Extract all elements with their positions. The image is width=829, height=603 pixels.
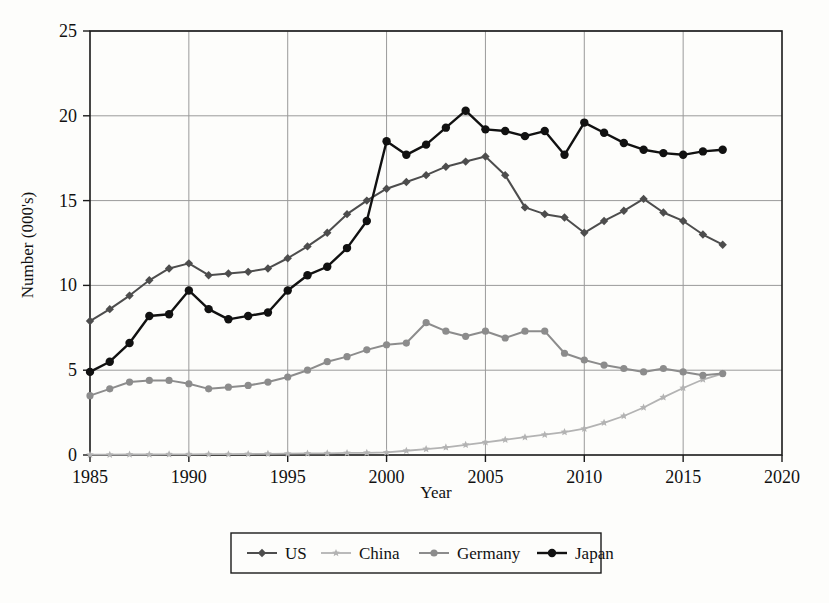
data-point [502,334,509,341]
plot-frame [90,31,782,455]
legend-label: US [285,544,307,563]
y-axis-ticks: 0510152025 [59,21,90,465]
data-point [264,264,272,272]
plot-border [90,31,782,455]
data-point [165,377,172,384]
data-point [303,271,311,279]
data-point [244,312,252,320]
data-point [343,353,350,360]
line-chart: 0510152025 19851990199520002005201020152… [0,0,829,603]
data-point [145,312,153,320]
data-point [126,378,133,385]
data-point [541,328,548,335]
y-tick-label: 0 [68,445,77,465]
data-point [442,443,450,450]
data-point [324,358,331,365]
data-point [521,328,528,335]
data-point [106,451,114,458]
data-point [382,137,390,145]
data-point [640,368,647,375]
data-point [461,157,469,165]
data-point [699,372,706,379]
series-line [90,111,723,372]
data-point [185,286,193,294]
data-point [560,151,568,159]
chart-legend: USChinaGermanyJapan [231,533,614,573]
x-axis-title: Year [420,483,452,502]
data-point [185,259,193,267]
x-tick-label: 2000 [369,467,405,487]
data-point [620,365,627,372]
data-point [126,450,134,457]
data-point [165,450,173,457]
y-axis-title: Number (000's) [18,192,37,298]
x-tick-label: 2005 [467,467,503,487]
data-point [481,125,489,133]
data-point [106,385,113,392]
data-point [521,132,529,140]
data-point [284,286,292,294]
data-point [718,240,726,248]
data-point [620,412,628,419]
data-point [442,123,450,131]
data-point [204,305,212,313]
x-tick-label: 1985 [72,467,108,487]
data-point [224,269,232,277]
data-point [718,146,726,154]
data-point [106,358,114,366]
data-point [304,367,311,374]
x-tick-label: 2015 [665,467,701,487]
data-point [284,373,291,380]
data-point [125,339,133,347]
data-point [659,149,667,157]
data-point [343,244,351,252]
series-line [90,374,723,455]
y-tick-label: 5 [68,360,77,380]
legend-label: Germany [457,544,521,563]
data-point [640,404,648,411]
data-point [580,118,588,126]
y-tick-label: 15 [59,191,77,211]
data-point [422,140,430,148]
data-point [284,254,292,262]
data-point [86,392,93,399]
data-point [600,419,608,426]
data-point [501,436,509,443]
data-point [422,171,430,179]
data-point [245,382,252,389]
data-point [422,445,430,452]
data-point [244,268,252,276]
data-point [521,433,529,440]
grid-lines [90,31,782,455]
data-point [461,107,469,115]
data-point [462,333,469,340]
data-point [264,378,271,385]
data-series-germany [86,319,726,399]
data-point [244,450,252,457]
data-point [442,328,449,335]
data-point [205,385,212,392]
data-point [541,127,549,135]
data-point [402,178,410,186]
data-point [363,346,370,353]
data-point [323,263,331,271]
x-tick-label: 1990 [171,467,207,487]
data-point [225,384,232,391]
data-point [86,368,94,376]
data-point [600,129,608,137]
data-point [185,380,192,387]
legend-marker [430,549,437,556]
data-point [403,339,410,346]
data-point [600,217,608,225]
data-point [680,368,687,375]
data-point [541,431,549,438]
data-point [482,328,489,335]
data-point [146,450,154,457]
data-point [264,450,272,457]
data-point [581,356,588,363]
y-tick-label: 20 [59,106,77,126]
data-point [541,210,549,218]
data-point [224,315,232,323]
data-point [205,450,213,457]
legend-label: China [359,544,400,563]
